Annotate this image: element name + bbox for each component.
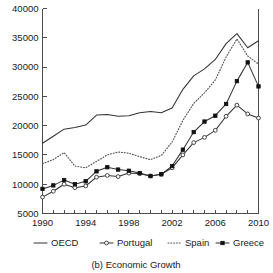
data-point-marker [246, 112, 250, 116]
data-point-marker [105, 174, 109, 178]
data-point-marker [224, 102, 227, 105]
data-point-marker [224, 114, 228, 118]
data-point-marker [192, 141, 196, 145]
y-tick-label: 40000 [12, 3, 38, 14]
y-tick-label: 35000 [12, 32, 38, 43]
data-point-marker [192, 130, 195, 133]
y-tick-label: 20000 [12, 120, 38, 131]
y-tick-label: 15000 [12, 149, 38, 160]
data-point-marker [213, 128, 217, 132]
data-point-marker [257, 85, 260, 88]
y-tick-label: 30000 [12, 61, 38, 72]
data-point-marker [149, 174, 152, 177]
data-point-marker [51, 189, 55, 193]
data-point-marker [214, 114, 217, 117]
data-point-marker [138, 171, 141, 174]
x-axis-tick-marks [43, 210, 259, 214]
legend-label: Greece [233, 237, 264, 248]
economic-growth-figure: 500010000150002000025000300003500040000 … [0, 0, 273, 273]
series-line [43, 34, 259, 144]
legend-swatch-icon [100, 241, 113, 245]
data-point-marker [181, 148, 184, 151]
y-tick-label: 25000 [12, 91, 38, 102]
data-point-marker [170, 164, 173, 167]
data-series-layer [41, 34, 261, 199]
data-point-marker [95, 170, 98, 173]
data-point-marker [116, 175, 120, 179]
data-point-marker [160, 173, 163, 176]
x-tick-label: 2010 [248, 217, 269, 228]
data-point-marker [95, 175, 99, 179]
legend-swatch-icon [216, 241, 229, 244]
line-chart: 500010000150002000025000300003500040000 … [0, 0, 273, 273]
data-point-marker [127, 169, 130, 172]
legend-label: Spain [185, 237, 209, 248]
data-point-marker [106, 166, 109, 169]
series-greece [41, 61, 260, 191]
y-axis-tick-labels: 500010000150002000025000300003500040000 [12, 3, 38, 219]
x-tick-label: 2002 [162, 217, 183, 228]
data-point-marker [203, 135, 207, 139]
data-point-marker [73, 183, 76, 186]
x-tick-label: 1994 [75, 217, 96, 228]
data-point-marker [203, 120, 206, 123]
data-point-marker [41, 195, 45, 199]
x-axis-tick-labels: 199019941998200220062010 [32, 217, 269, 228]
series-oecd [43, 34, 259, 144]
data-point-marker [257, 116, 261, 120]
legend-item-portugal[interactable]: Portugal [100, 237, 152, 248]
series-line [43, 62, 259, 189]
data-point-marker [41, 187, 44, 190]
figure-caption: (b) Economic Growth [91, 259, 180, 270]
data-point-marker [84, 184, 88, 188]
y-axis-tick-marks [43, 9, 47, 214]
chart-legend: OECDPortugalSpainGreece [34, 237, 264, 248]
x-tick-label: 1990 [32, 217, 53, 228]
data-point-marker [235, 79, 238, 82]
x-tick-label: 1998 [118, 217, 139, 228]
legend-label: OECD [51, 237, 79, 248]
data-point-marker [116, 168, 119, 171]
legend-item-oecd[interactable]: OECD [34, 237, 79, 248]
legend-label: Portugal [117, 237, 152, 248]
data-point-marker [181, 153, 185, 157]
data-point-marker [246, 61, 249, 64]
data-point-marker [235, 103, 239, 107]
data-point-marker [62, 182, 66, 186]
data-point-marker [73, 186, 77, 190]
data-point-marker [84, 180, 87, 183]
data-point-marker [62, 178, 65, 181]
x-tick-label: 2006 [205, 217, 226, 228]
data-point-marker [52, 184, 55, 187]
legend-item-spain[interactable]: Spain [168, 237, 209, 248]
legend-item-greece[interactable]: Greece [216, 237, 264, 248]
y-tick-label: 10000 [12, 179, 38, 190]
